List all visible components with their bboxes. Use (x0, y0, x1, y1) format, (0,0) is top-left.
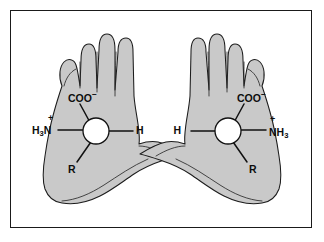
figure-root: COO− H3N + H R COO− NH3 + H R (0, 0, 324, 242)
right-hydrogen-label: H (173, 124, 181, 136)
left-sidechain-label: R (68, 163, 76, 175)
left-hand-group (43, 34, 184, 204)
left-ammonium-charge: + (48, 113, 53, 123)
right-hand-silhouette (140, 34, 281, 204)
left-hand-silhouette (43, 34, 184, 204)
right-hand-group (140, 34, 281, 204)
left-hydrogen-label: H (136, 124, 144, 136)
right-sidechain-label: R (249, 163, 257, 175)
right-alpha-carbon (215, 118, 241, 144)
chirality-diagram: COO− H3N + H R COO− NH3 + H R (0, 0, 324, 242)
left-alpha-carbon (83, 118, 109, 144)
right-ammonium-charge: + (270, 114, 275, 124)
